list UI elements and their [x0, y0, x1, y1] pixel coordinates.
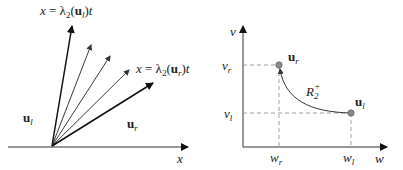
rarefaction-fan	[52, 26, 153, 146]
left-ray-label: x = λ2(ul)t	[39, 3, 93, 20]
wl-label: wl	[343, 150, 355, 167]
left-panel: x x = λ2(ul)t x = λ2(ur)t ul ur	[8, 3, 190, 166]
w-axis-label: w	[375, 151, 384, 166]
point-ul	[348, 110, 354, 116]
wr-label: wr	[270, 150, 283, 167]
diagram-canvas: x x = λ2(ul)t x = λ2(ur)t ul ur v w	[0, 0, 403, 170]
point-ul-label: ul	[355, 94, 365, 111]
curve-label: R+2	[305, 81, 320, 101]
right-state-label: ur	[127, 116, 138, 133]
vr-label: vr	[222, 58, 232, 75]
ray	[52, 45, 91, 146]
v-axis-label: v	[230, 24, 236, 39]
ray-right-boundary	[52, 83, 153, 146]
right-panel: v w vr vl wr wl R+2 ur ul	[222, 24, 387, 167]
vl-label: vl	[224, 106, 233, 123]
right-ray-label: x = λ2(ur)t	[135, 61, 190, 78]
x-axis-label: x	[176, 151, 183, 166]
point-ur	[276, 62, 282, 68]
ray-left-boundary	[52, 26, 72, 146]
ray	[52, 56, 110, 146]
ray	[52, 70, 129, 146]
left-state-label: ul	[23, 110, 33, 127]
point-ur-label: ur	[288, 49, 299, 66]
